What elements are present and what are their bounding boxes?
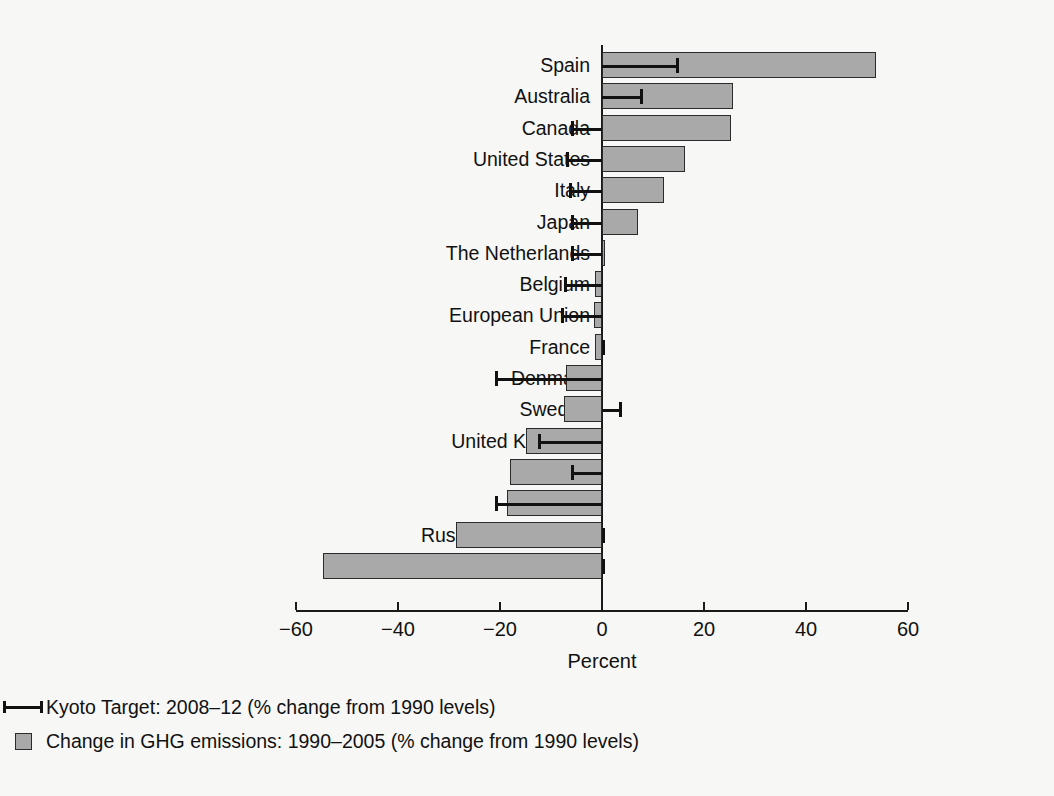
kyoto-target-cap bbox=[564, 277, 567, 292]
chart-legend: Kyoto Target: 2008–12 (% change from 199… bbox=[0, 690, 1054, 758]
x-axis-tick bbox=[295, 602, 297, 610]
kyoto-target-line bbox=[495, 503, 602, 506]
x-axis-tick-label: −20 bbox=[483, 618, 517, 641]
legend-square-marker-wrap bbox=[0, 733, 46, 750]
x-axis-tick bbox=[397, 602, 399, 610]
category-label: United Kingdom bbox=[0, 429, 590, 452]
x-axis-tick-label: 60 bbox=[897, 618, 919, 641]
kyoto-target-cap bbox=[619, 402, 622, 417]
kyoto-target-line bbox=[564, 284, 602, 287]
emissions-bar bbox=[602, 146, 685, 172]
x-axis-tick bbox=[703, 602, 705, 610]
category-label: Belgium bbox=[0, 273, 590, 296]
category-label: Japan bbox=[0, 210, 590, 233]
kyoto-target-cap bbox=[602, 528, 605, 543]
emissions-bar bbox=[564, 396, 602, 422]
kyoto-target-line bbox=[495, 378, 602, 381]
square-swatch-icon bbox=[15, 733, 32, 750]
category-label: France bbox=[0, 335, 590, 358]
kyoto-target-cap bbox=[571, 246, 574, 261]
x-axis-tick-label: −40 bbox=[381, 618, 415, 641]
kyoto-target-cap bbox=[566, 152, 569, 167]
kyoto-target-cap bbox=[569, 183, 572, 198]
kyoto-target-cap bbox=[538, 434, 541, 449]
kyoto-target-line bbox=[571, 128, 602, 131]
x-axis-line bbox=[296, 610, 908, 612]
emissions-bar bbox=[602, 115, 731, 141]
kyoto-target-line bbox=[561, 315, 602, 318]
category-label: Poland bbox=[0, 460, 590, 483]
kyoto-target-line bbox=[602, 96, 643, 99]
category-label: The Netherlands bbox=[0, 241, 590, 264]
legend-label-kyoto-target: Kyoto Target: 2008–12 (% change from 199… bbox=[46, 696, 496, 719]
x-axis-tick bbox=[601, 602, 603, 610]
kyoto-target-cap bbox=[571, 215, 574, 230]
x-axis-tick-label: 20 bbox=[693, 618, 715, 641]
x-axis-tick bbox=[805, 602, 807, 610]
plot-area: −60−40−200204060PercentSpainAustraliaCan… bbox=[0, 0, 1054, 796]
kyoto-target-line bbox=[571, 253, 602, 256]
emissions-bar bbox=[602, 177, 664, 203]
kyoto-target-line bbox=[569, 190, 602, 193]
kyoto-target-cap bbox=[676, 58, 679, 73]
emissions-bar bbox=[323, 553, 602, 579]
legend-line-marker-wrap bbox=[0, 701, 46, 713]
kyoto-target-line bbox=[571, 222, 602, 225]
kyoto-target-cap bbox=[495, 496, 498, 511]
category-label: Spain bbox=[0, 54, 590, 77]
kyoto-target-cap bbox=[602, 340, 605, 355]
kyoto-target-cap bbox=[571, 465, 574, 480]
kyoto-target-line bbox=[571, 472, 602, 475]
chart-figure: −60−40−200204060PercentSpainAustraliaCan… bbox=[0, 0, 1054, 796]
x-axis-tick-label: 0 bbox=[596, 618, 607, 641]
x-axis-title: Percent bbox=[568, 650, 637, 673]
x-axis-tick bbox=[907, 602, 909, 610]
legend-label-ghg-change: Change in GHG emissions: 1990–2005 (% ch… bbox=[46, 730, 639, 753]
category-label: Italy bbox=[0, 179, 590, 202]
legend-item-kyoto-target: Kyoto Target: 2008–12 (% change from 199… bbox=[0, 690, 1054, 724]
kyoto-target-cap bbox=[571, 121, 574, 136]
x-axis-tick bbox=[499, 602, 501, 610]
emissions-bar bbox=[595, 334, 602, 360]
kyoto-target-line bbox=[602, 65, 679, 68]
category-label: United States bbox=[0, 147, 590, 170]
kyoto-target-cap bbox=[495, 371, 498, 386]
range-line-icon bbox=[3, 701, 43, 713]
kyoto-target-line bbox=[538, 441, 602, 444]
category-label: Canada bbox=[0, 116, 590, 139]
emissions-bar bbox=[456, 522, 602, 548]
category-label: Sweden bbox=[0, 398, 590, 421]
x-axis-tick-label: 40 bbox=[795, 618, 817, 641]
legend-item-ghg-change: Change in GHG emissions: 1990–2005 (% ch… bbox=[0, 724, 1054, 758]
kyoto-target-cap bbox=[640, 89, 643, 104]
emissions-bar bbox=[602, 209, 638, 235]
emissions-bar bbox=[602, 240, 605, 266]
kyoto-target-cap bbox=[561, 308, 564, 323]
category-label: Australia bbox=[0, 85, 590, 108]
kyoto-target-line bbox=[566, 159, 602, 162]
x-axis-tick-label: −60 bbox=[279, 618, 313, 641]
category-label: European Union bbox=[0, 304, 590, 327]
kyoto-target-cap bbox=[602, 559, 605, 574]
